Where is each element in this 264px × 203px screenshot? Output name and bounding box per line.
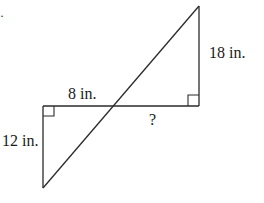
diagonal-hypotenuse	[43, 6, 199, 188]
label-unknown: ?	[149, 112, 156, 128]
triangle-diagram	[0, 0, 264, 203]
label-18-in: 18 in.	[209, 45, 245, 61]
right-angle-marker-left	[43, 106, 54, 116]
label-12-in: 12 in.	[2, 133, 38, 149]
artifact-dot: ·	[0, 10, 4, 22]
right-angle-marker-right	[188, 95, 199, 106]
label-8-in: 8 in.	[68, 86, 96, 102]
